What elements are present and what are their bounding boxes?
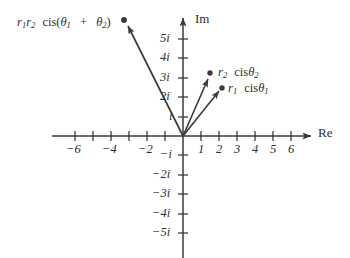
imag-tick-label-4i: 4i: [160, 51, 170, 64]
imag-tick-label-5i: 5i: [160, 32, 170, 45]
vector-label-r1-sub2: 1: [264, 86, 268, 96]
vector-label-r1: r1 cisθ1: [228, 82, 269, 95]
imag-tick-label--4i: −4i: [152, 207, 170, 220]
vector-r1r2: [121, 17, 183, 136]
complex-plane-figure: Im Re −6 −4 −2 1 2 3 4 5 6 5i 4i 3i 2i i…: [0, 0, 350, 258]
imag-tick-label--2i: −2i: [152, 168, 170, 181]
real-tick-label-2: 2: [216, 143, 222, 156]
vector-label-r1r2-func: cis: [42, 15, 56, 29]
imag-tick-label-2i: 2i: [160, 90, 170, 103]
vector-label-r1r2-close-paren: ): [107, 15, 111, 29]
vector-label-r2-sub1: 2: [223, 70, 227, 80]
point-r1: [219, 85, 224, 90]
vector-label-r1-func: cis: [244, 81, 258, 95]
real-tick-label-3: 3: [234, 143, 240, 156]
vector-label-r1r2-plus: +: [78, 15, 89, 29]
real-tick-label-5: 5: [270, 143, 276, 156]
imag-tick-label--3i: −3i: [152, 187, 170, 200]
vector-r2: [183, 70, 213, 136]
vector-label-r1r2-sub2: 1: [67, 20, 71, 30]
point-r1r2: [121, 17, 127, 23]
vector-label-r2: r2 cisθ2: [218, 66, 259, 79]
vector-label-r2-func: cis: [234, 65, 248, 79]
argand-diagram-canvas: [0, 0, 350, 258]
vector-label-r1r2-sub3: 2: [102, 20, 106, 30]
real-tick-label-6: 6: [288, 143, 294, 156]
real-tick-label--2: −2: [138, 143, 153, 156]
point-r2: [207, 70, 212, 75]
real-tick-label--6: −6: [66, 143, 81, 156]
vector-label-r1r2-sub1b: 2: [31, 20, 35, 30]
imag-tick-label-3i: 3i: [160, 71, 170, 84]
vector-label-r1r2: r1r2 cis(θ1 + θ2): [17, 16, 111, 29]
real-tick-label--4: −4: [102, 143, 117, 156]
vector-label-r1-sub1: 1: [233, 86, 237, 96]
vector-label-r1r2-sub1: 1: [22, 20, 26, 30]
vector-label-r1r2-theta: θ: [60, 15, 66, 29]
imag-tick-label--i: −i: [160, 148, 172, 161]
real-tick-label-1: 1: [198, 143, 204, 156]
imag-tick-label-i: i: [169, 110, 172, 123]
real-axis-label: Re: [318, 126, 332, 139]
imaginary-axis: [178, 18, 188, 258]
vector-r1: [183, 85, 225, 136]
vector-label-r2-sub2: 2: [254, 70, 258, 80]
imaginary-axis-label: Im: [195, 12, 209, 25]
imag-tick-label--5i: −5i: [152, 226, 170, 239]
real-tick-label-4: 4: [252, 143, 258, 156]
